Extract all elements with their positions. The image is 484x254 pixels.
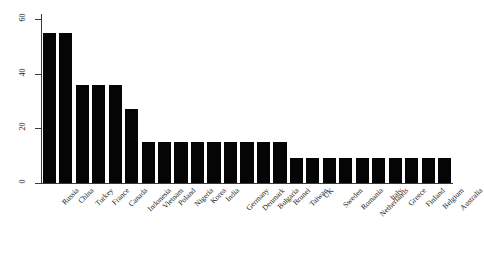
bar: [405, 158, 418, 183]
bar: [92, 85, 105, 183]
bar: [207, 142, 220, 183]
bar: [339, 158, 352, 183]
bar: [389, 158, 402, 183]
bar: [257, 142, 270, 183]
y-axis-tick: [35, 183, 41, 184]
bar: [323, 158, 336, 183]
bar: [372, 158, 385, 183]
bar: [174, 142, 187, 183]
bar: [306, 158, 319, 183]
x-axis-line: [41, 183, 453, 184]
y-axis-tick-label: 40: [18, 61, 27, 83]
bar: [76, 85, 89, 183]
y-axis-tick-label: 60: [18, 7, 27, 29]
bar: [125, 109, 138, 183]
bar: [240, 142, 253, 183]
x-axis-tick-label: India: [224, 186, 241, 203]
bar: [290, 158, 303, 183]
plot-area: [41, 14, 453, 183]
bar: [224, 142, 237, 183]
y-axis-tick-label: 0: [18, 171, 27, 193]
y-axis-tick-label: 20: [18, 116, 27, 138]
bar: [142, 142, 155, 183]
bar: [109, 85, 122, 183]
bar: [43, 33, 56, 183]
bar: [191, 142, 204, 183]
bar: [273, 142, 286, 183]
bar: [422, 158, 435, 183]
bar: [438, 158, 451, 183]
bar: [356, 158, 369, 183]
x-axis-tick-label: China: [76, 186, 95, 205]
bar: [59, 33, 72, 183]
bar: [158, 142, 171, 183]
